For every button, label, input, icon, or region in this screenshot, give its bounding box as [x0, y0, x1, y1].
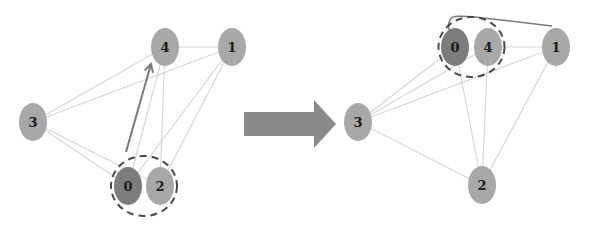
after-edge-0-2: [455, 47, 482, 185]
before-node-0-label: 0: [123, 179, 132, 194]
after-node-1: 1: [542, 28, 570, 66]
after-edge-3-2: [358, 122, 482, 185]
before-node-2: 2: [146, 167, 174, 205]
before-edge-3-1: [33, 47, 232, 122]
after-node-3: 3: [344, 103, 372, 141]
before-edge-3-2: [33, 122, 160, 186]
after-node-1-label: 1: [551, 40, 560, 55]
before-node-3-label: 3: [28, 115, 37, 130]
after-curved-edge-0-1: [449, 16, 552, 30]
after-edge-3-4: [358, 47, 488, 122]
after-node-4: 4: [474, 28, 502, 66]
before-edge-4-2: [160, 47, 165, 186]
community-move-diagram: 01234 01234: [0, 0, 591, 234]
before-node-3: 3: [19, 103, 47, 141]
after-edge-4-2: [482, 47, 488, 185]
before-node-1-label: 1: [227, 40, 236, 55]
move-arrow: [126, 64, 151, 152]
before-graph: 01234: [19, 28, 246, 216]
before-node-2-label: 2: [155, 179, 164, 194]
after-node-0-label: 0: [450, 40, 459, 55]
after-graph: 01234: [344, 16, 570, 204]
after-node-2-label: 2: [477, 178, 486, 193]
after-node-3-label: 3: [353, 115, 362, 130]
before-node-4: 4: [151, 28, 179, 66]
before-node-4-label: 4: [160, 40, 169, 55]
before-edge-1-0: [128, 47, 232, 186]
after-node-4-label: 4: [483, 40, 492, 55]
before-edge-1-2: [160, 47, 232, 186]
after-node-2: 2: [468, 166, 496, 204]
after-node-0: 0: [441, 28, 469, 66]
before-node-1: 1: [218, 28, 246, 66]
before-node-0: 0: [114, 167, 142, 205]
after-edge-1-2: [482, 47, 556, 185]
right-arrow-icon: [244, 100, 336, 148]
transition-arrow: [244, 100, 336, 148]
